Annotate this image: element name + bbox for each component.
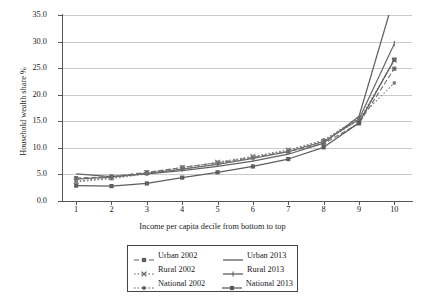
- series-line: [76, 44, 394, 180]
- data-point-marker: [357, 121, 361, 125]
- legend-item[interactable]: National 2013: [222, 279, 293, 289]
- chart-figure: Household wealth share % 0.05.010.015.02…: [0, 0, 425, 298]
- data-point-marker: [251, 164, 255, 168]
- legend-item[interactable]: Urban 2013: [223, 251, 286, 261]
- legend-label: Rural 2013: [247, 265, 284, 275]
- y-tick-label: 10.0: [21, 144, 47, 152]
- legend-item[interactable]: Rural 2002: [134, 265, 223, 275]
- data-point-marker: [322, 145, 326, 149]
- x-axis-tick-labels: 12345678910: [0, 205, 425, 219]
- x-axis-line: [62, 201, 413, 202]
- x-tick-label: 2: [101, 205, 121, 214]
- dashed-square-key: [134, 251, 154, 261]
- y-tick-label: 25.0: [21, 64, 47, 72]
- series-national-2002: [74, 81, 396, 184]
- y-tick-label: 15.0: [21, 117, 47, 125]
- chart-legend: Urban 2002Urban 2013Rural 2002Rural 2013…: [127, 245, 298, 292]
- series-line: [76, 60, 394, 186]
- legend-item[interactable]: Urban 2002: [134, 251, 223, 261]
- legend-label: National 2013: [246, 279, 293, 289]
- data-point-marker: [145, 181, 149, 185]
- data-point-marker: [142, 258, 146, 262]
- series-line: [76, 60, 394, 181]
- data-point-marker: [230, 286, 234, 290]
- x-axis-title: Income per capita decile from bottom to …: [0, 222, 425, 231]
- series-line: [76, 83, 394, 182]
- data-point-marker: [74, 183, 78, 187]
- dotted-dot-key: [134, 279, 154, 289]
- legend-label: Urban 2002: [158, 251, 197, 261]
- data-point-marker: [392, 58, 396, 62]
- y-tick-label: 20.0: [21, 91, 47, 99]
- plot-area: [62, 15, 412, 201]
- series-lines: [62, 15, 412, 201]
- legend-row: National 2002National 2013: [134, 277, 293, 291]
- data-point-marker: [142, 286, 146, 290]
- x-tick-label: 4: [172, 205, 192, 214]
- y-tick-label: 30.0: [21, 38, 47, 46]
- legend-label: Rural 2002: [158, 265, 195, 275]
- legend-row: Urban 2002Urban 2013: [134, 249, 293, 263]
- series-rural-2002: [74, 58, 397, 184]
- legend-item[interactable]: National 2002: [134, 279, 222, 289]
- data-point-marker: [286, 157, 290, 161]
- data-point-marker: [180, 176, 184, 180]
- x-tick-label: 9: [349, 205, 369, 214]
- solid-tick-key: [223, 265, 243, 275]
- dotted-cross-key: [134, 265, 154, 275]
- y-axis-tick-labels: 0.05.010.015.020.025.030.035.0: [20, 0, 47, 298]
- legend-row: Rural 2002Rural 2013: [134, 263, 293, 277]
- solid-line-key: [223, 251, 243, 261]
- data-point-marker: [392, 81, 396, 85]
- data-point-marker: [109, 184, 113, 188]
- y-tick-label: 0.0: [21, 197, 47, 205]
- x-tick-label: 10: [384, 205, 404, 214]
- x-tick-label: 3: [137, 205, 157, 214]
- x-tick-label: 1: [66, 205, 86, 214]
- solid-square-key: [222, 279, 242, 289]
- x-tick-label: 8: [314, 205, 334, 214]
- x-tick-label: 7: [278, 205, 298, 214]
- y-tick-label: 5.0: [21, 170, 47, 178]
- legend-label: National 2002: [158, 279, 205, 289]
- series-national-2013: [74, 58, 396, 189]
- series-rural-2013: [76, 41, 394, 182]
- x-tick-label: 5: [208, 205, 228, 214]
- data-point-marker: [215, 170, 219, 174]
- y-tick-label: 35.0: [21, 11, 47, 19]
- series-urban-2013: [76, 15, 389, 177]
- legend-label: Urban 2013: [247, 251, 286, 261]
- x-tick-label: 6: [243, 205, 263, 214]
- y-tick-mark: [58, 201, 62, 202]
- data-point-marker: [392, 67, 396, 71]
- series-line: [76, 15, 389, 177]
- legend-item[interactable]: Rural 2013: [223, 265, 284, 275]
